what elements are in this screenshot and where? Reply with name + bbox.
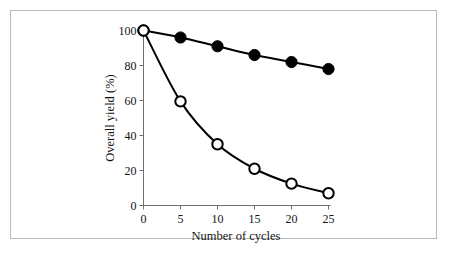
y-axis-title: Overall yield (%): [103, 74, 117, 161]
data-point-marker: [323, 188, 333, 198]
y-tick-label: 40: [125, 129, 137, 143]
y-axis-ticks: 020406080100: [119, 24, 144, 213]
data-point-marker: [249, 49, 260, 60]
x-tick-label: 25: [323, 212, 335, 226]
data-point-marker: [138, 25, 148, 35]
y-tick-label: 0: [131, 199, 137, 213]
x-tick-label: 10: [212, 212, 224, 226]
data-point-marker: [323, 63, 334, 74]
x-tick-label: 15: [249, 212, 261, 226]
figure-container: 020406080100 0510152025 Number of cycles…: [0, 0, 450, 256]
data-point-marker: [249, 164, 259, 174]
data-point-marker: [212, 41, 223, 52]
x-tick-label: 5: [178, 212, 184, 226]
x-axis-title: Number of cycles: [192, 229, 281, 243]
data-point-marker: [286, 178, 296, 188]
x-tick-label: 20: [286, 212, 298, 226]
y-tick-label: 100: [119, 24, 137, 38]
x-axis-ticks: 0510152025: [141, 206, 335, 226]
data-point-marker: [212, 139, 222, 149]
series-1: [138, 25, 334, 75]
data-series-layer: [138, 25, 334, 199]
axes-group: [144, 29, 331, 206]
y-tick-label: 80: [125, 59, 137, 73]
y-tick-label: 60: [125, 94, 137, 108]
y-tick-label: 20: [125, 164, 137, 178]
chart-plot: 020406080100 0510152025 Number of cycles…: [0, 0, 450, 256]
data-point-marker: [175, 32, 186, 43]
series-line: [144, 31, 329, 70]
data-point-marker: [286, 56, 297, 67]
x-tick-label: 0: [141, 212, 147, 226]
series-line: [144, 31, 329, 194]
data-point-marker: [175, 96, 185, 106]
